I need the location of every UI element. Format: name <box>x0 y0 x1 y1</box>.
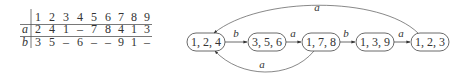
state-node-124: 1, 2, 4 <box>187 33 225 51</box>
edge-356-to-178: a <box>286 27 301 42</box>
state-label: 1, 2, 3 <box>415 35 445 49</box>
edge-label: a <box>290 27 296 39</box>
edge-label: a <box>314 1 320 13</box>
edge-124-to-356: b <box>225 27 247 42</box>
state-label: 1, 2, 4 <box>191 35 221 49</box>
edge-178-to-139: b <box>340 27 355 42</box>
edge-123-to-124: a <box>214 1 418 33</box>
state-node-356: 3, 5, 6 <box>248 33 286 51</box>
state-label: 1, 3, 9 <box>360 35 390 49</box>
state-label: 1, 7, 8 <box>306 35 336 49</box>
edge-label: b <box>233 27 239 39</box>
edge-label: a <box>398 27 404 39</box>
edge-139-to-123: a <box>394 27 410 42</box>
state-node-139: 1, 3, 9 <box>356 33 394 51</box>
state-node-123: 1, 2, 3 <box>411 33 449 51</box>
edge-label: a <box>259 58 265 70</box>
edge-178-to-124: a <box>215 51 314 72</box>
edge-label: b <box>343 27 349 39</box>
state-label: 3, 5, 6 <box>252 35 282 49</box>
automaton-diagram: 1, 2, 4 3, 5, 6 1, 7, 8 1, 3, 9 1, 2, 3 … <box>0 0 467 77</box>
state-node-178: 1, 7, 8 <box>302 33 340 51</box>
